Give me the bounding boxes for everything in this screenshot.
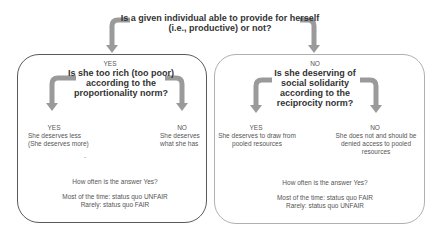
outcome-line: She deserves less [28, 132, 128, 140]
left-yes-outcome: She deserves less (She deserves more) [28, 132, 128, 148]
outcome-line: resources [332, 148, 420, 156]
question-line: proportionality norm? [66, 88, 176, 98]
outcome-rarely: Rarely: status quo UNFAIR [245, 202, 405, 210]
left-no-label: NO [172, 124, 192, 132]
outcome-most: Most of the time: status quo UNFAIR [30, 193, 200, 201]
right-frequency-question: How often is the answer Yes? [250, 179, 400, 187]
root-question: Is a given individual able to provide fo… [120, 13, 320, 33]
right-outcomes: Most of the time: status quo FAIR Rarely… [245, 194, 405, 210]
outcome-line: She deserves to draw from [212, 132, 302, 140]
root-question-line2: (i.e., productive) or not? [120, 23, 320, 33]
right-yes-label: YES [245, 124, 267, 132]
left-frequency-question: How often is the answer Yes? [40, 178, 190, 186]
outcome-line: She does not and should be [332, 132, 420, 140]
proportionality-question: Is she too rich (too poor) according to … [66, 68, 176, 98]
question-line: social solidarity [262, 78, 368, 88]
question-line: Is she too rich (too poor) [66, 68, 176, 78]
outcome-most: Most of the time: status quo FAIR [245, 194, 405, 202]
right-no-label: NO [365, 124, 385, 132]
outcome-rarely: Rarely: status quo FAIR [30, 201, 200, 209]
left-branch-answer-label: YES [95, 60, 125, 68]
outcome-line: (She deserves more) [28, 140, 128, 148]
left-no-outcome: She deserves what she has [160, 132, 210, 148]
root-question-line1: Is a given individual able to provide fo… [120, 13, 320, 23]
left-yes-label: YES [44, 124, 64, 132]
question-line: according to the [66, 78, 176, 88]
outcome-line: denied access to pooled [332, 140, 420, 148]
left-outcomes: Most of the time: status quo UNFAIR Rare… [30, 193, 200, 209]
question-line: Is she deserving of [262, 68, 368, 78]
outcome-line: pooled resources [212, 140, 302, 148]
question-line: reciprocity norm? [262, 98, 368, 108]
question-line: according to the [262, 88, 368, 98]
right-branch-answer-label: NO [300, 60, 330, 68]
left-dash: - [80, 153, 90, 161]
reciprocity-question: Is she deserving of social solidarity ac… [262, 68, 368, 108]
right-yes-outcome: She deserves to draw from pooled resourc… [212, 132, 302, 148]
outcome-line: She deserves [160, 132, 210, 140]
outcome-line: what she has [160, 140, 210, 148]
right-no-outcome: She does not and should be denied access… [332, 132, 420, 156]
